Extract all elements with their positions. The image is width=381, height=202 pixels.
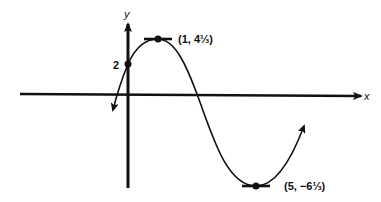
- y-intercept-point: [125, 61, 132, 68]
- cubic-graph: x y (1, 4⅓) (5, −6⅓) 2: [0, 0, 381, 202]
- min-point-label: (5, −6⅓): [284, 180, 326, 192]
- y-intercept-label: 2: [113, 59, 119, 71]
- max-point-label: (1, 4⅓): [178, 33, 213, 45]
- max-point: [155, 36, 162, 43]
- cubic-curve: [128, 39, 304, 186]
- x-axis: [20, 94, 361, 96]
- min-point: [253, 183, 260, 190]
- y-axis-label: y: [123, 8, 131, 20]
- x-axis-label: x: [363, 90, 370, 102]
